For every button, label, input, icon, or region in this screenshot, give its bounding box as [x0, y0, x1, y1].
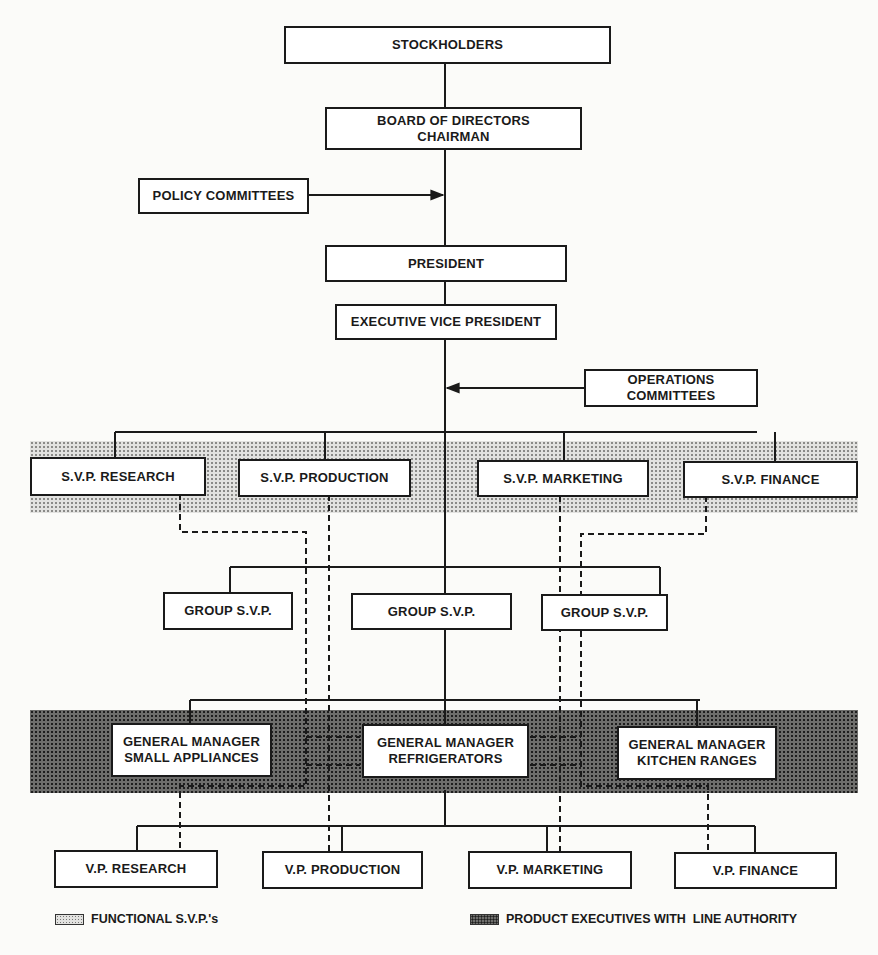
box-vp-research: V.P. RESEARCH [54, 850, 218, 888]
box-svp-production: S.V.P. PRODUCTION [238, 459, 411, 497]
box-executive-vice-president: EXECUTIVE VICE PRESIDENT [335, 304, 557, 340]
box-gm-kitchen-ranges: GENERAL MANAGER KITCHEN RANGES [617, 726, 777, 780]
box-group-svp-left: GROUP S.V.P. [163, 592, 293, 630]
legend-functional-svps: FUNCTIONAL S.V.P.'s [55, 912, 218, 926]
box-gm-small-appliances: GENERAL MANAGER SMALL APPLIANCES [111, 723, 272, 777]
box-svp-research: S.V.P. RESEARCH [30, 457, 206, 496]
box-board-of-directors: BOARD OF DIRECTORS CHAIRMAN [325, 107, 582, 150]
legend-product-executives: PRODUCT EXECUTIVES WITH LINE AUTHORITY [470, 912, 797, 926]
dark-pattern-swatch-icon [470, 914, 499, 925]
box-gm-refrigerators: GENERAL MANAGER REFRIGERATORS [362, 724, 529, 778]
box-group-svp-center: GROUP S.V.P. [351, 593, 512, 630]
box-group-svp-right: GROUP S.V.P. [541, 594, 668, 631]
light-pattern-swatch-icon [55, 914, 84, 925]
box-vp-finance: V.P. FINANCE [674, 852, 837, 889]
box-stockholders: STOCKHOLDERS [284, 26, 611, 64]
box-operations-committees: OPERATIONS COMMITTEES [584, 369, 758, 407]
box-vp-marketing: V.P. MARKETING [468, 851, 632, 889]
box-policy-committees: POLICY COMMITTEES [138, 178, 309, 214]
box-svp-marketing: S.V.P. MARKETING [477, 460, 649, 497]
box-vp-production: V.P. PRODUCTION [262, 851, 423, 889]
box-president: PRESIDENT [325, 245, 567, 282]
box-svp-finance: S.V.P. FINANCE [683, 461, 858, 498]
